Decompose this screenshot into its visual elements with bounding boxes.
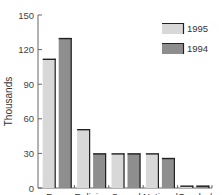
y-tick-label-90: 90 xyxy=(23,79,34,90)
x-tick-label-gender-disability: Gender/disability xyxy=(177,191,214,195)
x-tick-label-religion: Religion xyxy=(74,191,108,195)
legend-swatch-1994 xyxy=(162,43,184,54)
bar-1994-2 xyxy=(128,153,141,188)
bar-1995-2 xyxy=(112,153,125,188)
legend-label-1994: 1994 xyxy=(187,43,208,54)
y-axis-title: Thousands xyxy=(3,77,14,126)
y-axis: 0306090120150 xyxy=(18,10,42,194)
x-tick-label-national-origin: Nationalorigin xyxy=(143,191,178,195)
legend: 19951994 xyxy=(162,23,208,54)
grouped-bar-chart: 0306090120150 RaceReligionSexualorientat… xyxy=(0,0,222,195)
y-tick-label-120: 120 xyxy=(18,44,34,55)
legend-label-1995: 1995 xyxy=(187,23,208,34)
bar-1995-0 xyxy=(43,59,56,188)
bars xyxy=(43,38,210,188)
bar-1995-1 xyxy=(77,129,90,188)
y-tick-label-0: 0 xyxy=(29,183,34,194)
legend-swatch-1995 xyxy=(162,23,184,34)
bar-1994-1 xyxy=(93,153,106,188)
y-tick-label-60: 60 xyxy=(23,113,34,124)
bar-1994-0 xyxy=(59,38,72,188)
y-tick-label-30: 30 xyxy=(23,148,34,159)
bar-1995-3 xyxy=(146,153,159,188)
bar-1994-3 xyxy=(162,158,175,188)
x-tick-label-sexual-orientation: Sexualorientation xyxy=(104,191,148,195)
y-tick-label-150: 150 xyxy=(18,10,34,21)
x-tick-label-race: Race xyxy=(46,191,68,195)
